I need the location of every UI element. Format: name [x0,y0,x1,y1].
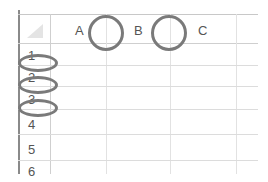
row-header-4[interactable]: 4 [19,114,50,134]
highlight-ellipse-row-boundary-3-4 [18,99,58,117]
highlight-circle-column-boundary-b-c [151,15,187,51]
select-all-button[interactable] [27,24,43,38]
highlight-ellipse-row-boundary-2-3 [18,76,58,94]
row-divider-4-5[interactable] [18,134,258,135]
row-header-6[interactable]: 6 [19,164,50,182]
row-divider-5-6[interactable] [18,160,258,161]
spreadsheet-grid: A B C 1 2 3 4 5 6 [0,0,268,182]
row-header-5[interactable]: 5 [19,139,50,159]
highlight-circle-column-boundary-a-b [88,15,124,51]
highlight-ellipse-row-boundary-1-2 [18,54,58,72]
sheet-top-border [18,14,258,15]
column-divider-c-d[interactable] [236,14,237,174]
column-header-bottom-border [18,43,258,44]
